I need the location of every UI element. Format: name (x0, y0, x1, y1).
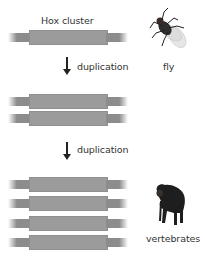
duplication-label-2: duplication (77, 144, 129, 155)
hox-cluster-fly (8, 30, 128, 45)
flank-right (106, 219, 128, 228)
hox-cluster-label: Hox cluster (41, 15, 94, 26)
cluster-block (29, 216, 108, 231)
hox-cluster-3a (8, 177, 128, 192)
chimpanzee-icon (149, 183, 189, 227)
fly-icon (146, 6, 194, 54)
cluster-block (29, 235, 108, 250)
duplication-label-1: duplication (77, 61, 129, 72)
flank-left (8, 97, 30, 106)
flank-left (8, 180, 30, 189)
flank-right (106, 180, 128, 189)
down-arrow-icon (66, 57, 68, 73)
flank-right (106, 97, 128, 106)
down-arrow-icon (66, 142, 68, 158)
vertebrates-label: vertebrates (146, 233, 200, 244)
flank-left (8, 199, 30, 208)
flank-left (8, 33, 30, 42)
hox-cluster-3c (8, 216, 128, 231)
cluster-block (29, 177, 108, 192)
hox-cluster-2b (8, 111, 128, 126)
hox-cluster-3b (8, 196, 128, 211)
flank-right (106, 199, 128, 208)
hox-cluster-2a (8, 94, 128, 109)
flank-right (106, 238, 128, 247)
hox-cluster-3d (8, 235, 128, 250)
flank-left (8, 238, 30, 247)
cluster-block (29, 30, 108, 45)
fly-label: fly (163, 61, 174, 72)
flank-right (106, 33, 128, 42)
flank-left (8, 114, 30, 123)
cluster-block (29, 196, 108, 211)
cluster-block (29, 111, 108, 126)
cluster-block (29, 94, 108, 109)
flank-left (8, 219, 30, 228)
flank-right (106, 114, 128, 123)
